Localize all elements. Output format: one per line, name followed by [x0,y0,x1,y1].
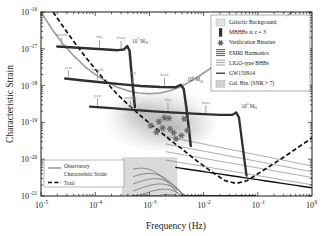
time-marker-label: day [96,34,103,39]
mbhb-mass-subscript: ⊙ [200,80,203,84]
y-tick-label: 10 [21,45,29,54]
legend-inset-label-line1: Observatory [64,163,90,169]
x-tick-label: 10 [252,201,260,210]
time-marker-label: hour [117,35,126,40]
legend-item: Galactic Background [216,19,277,26]
legend-item-label: Gal. Bin. (SNR > 7) [229,80,274,87]
y-tick-exponent: -18 [30,80,37,86]
time-marker-label: day [130,70,137,75]
legend-inset-label-total: Total [64,180,75,186]
y-tick-exponent: -20 [30,154,37,160]
legend-inset: ObservatoryCharacteristic StrainTotal [44,160,124,187]
y-axis-label: Characteristic Strain [5,65,15,143]
x-tick-label: 10 [306,201,314,210]
y-tick-label: 10 [21,192,29,201]
x-tick-exponent: -1 [260,199,265,205]
y-tick-label: 10 [21,118,29,127]
legend-swatch-gal-bin [216,80,225,87]
x-tick-label: 10 [143,201,151,210]
legend-inset-label-line2: Characteristic Strain [64,171,107,177]
x-axis-label: Frequency (Hz) [146,221,206,232]
legend-item-label: GW150914 [229,70,255,76]
y-tick-exponent: -19 [30,117,37,123]
legend-item-label: Galactic Background [229,19,277,25]
galactic-background-patch [123,158,177,196]
x-tick-exponent: 0 [315,199,318,205]
x-tick-exponent: -4 [98,199,103,205]
time-marker-label: year [93,93,101,98]
legend-item-label: LIGO-type BHBs [229,60,269,66]
mbhb-mass-exponent: 7 [137,37,139,41]
mbhb-mass-subscript: ⊙ [254,106,257,110]
x-tick-exponent: -5 [44,199,49,205]
legend-item-label: Verification Binaries [229,39,275,45]
legend-item-label: EMRI Harmonics [229,50,269,56]
legend-item: Gal. Bin. (SNR > 7) [216,80,274,87]
time-marker-label: hour [160,72,169,77]
figure-lisa-sensitivity: 10-510-410-310-210-1100 10-1610-1710-181… [0,0,326,236]
y-tick-exponent: -16 [30,6,37,12]
time-marker-label: year [64,65,72,70]
mbhb-mass-subscript: ⊙ [145,41,148,45]
x-tick-label: 10 [89,201,97,210]
x-tick-label: 10 [35,201,43,210]
mbhb-mass-exponent: 5 [247,102,249,106]
x-tick-label: 10 [198,201,206,210]
x-tick-exponent: -3 [152,199,157,205]
time-marker-label: month [125,95,137,100]
time-marker-label: month [56,32,68,37]
legend-main: Galactic BackgroundMBHBs at z = 3Verific… [211,15,310,91]
time-marker-label: month [92,67,104,72]
y-tick-label: 10 [21,82,29,91]
chart-canvas: 10-510-410-310-210-1100 10-1610-1710-181… [0,0,326,236]
y-tick-label: 10 [21,8,29,17]
time-marker-label: day [165,97,172,102]
x-tick-exponent: -2 [206,199,211,205]
time-marker-label: hour [202,100,211,105]
y-tick-exponent: -17 [30,43,37,49]
legend-item-label: MBHBs at z = 3 [229,29,266,35]
y-tick-label: 10 [21,155,29,164]
legend-swatch-galactic-background [216,19,225,26]
legend-swatch-mbhb [219,28,222,37]
y-tick-exponent: -21 [30,190,37,196]
mbhb-mass-exponent: 6 [193,76,195,80]
